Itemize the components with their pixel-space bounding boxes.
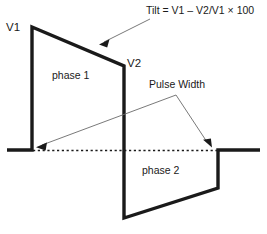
label-phase-2: phase 2 (142, 165, 179, 176)
label-tilt-formula: Tilt = V1 – V2/V1 × 100 (146, 5, 254, 16)
tilt-annotation-arrow (99, 19, 150, 48)
biphasic-waveform-icon (7, 27, 260, 218)
label-v1: V1 (6, 22, 20, 34)
label-v2: V2 (127, 58, 141, 70)
waveform-canvas (0, 0, 267, 234)
label-pulse-width: Pulse Width (149, 79, 205, 90)
waveform-diagram: V1 V2 phase 1 phase 2 Pulse Width Tilt =… (0, 0, 267, 234)
label-phase-1: phase 1 (52, 70, 89, 81)
